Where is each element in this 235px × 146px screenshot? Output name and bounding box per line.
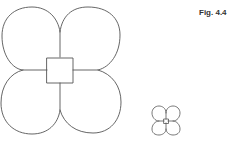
center-square [47,58,73,83]
petal-bottom-right [60,70,121,133]
petal-bottom-left [1,70,60,134]
small-four-petal-flower [152,106,180,135]
large-four-petal-flower [1,7,121,134]
petal-top-left [2,7,60,70]
diagram-canvas [0,0,235,146]
petal-top-right [60,7,120,70]
